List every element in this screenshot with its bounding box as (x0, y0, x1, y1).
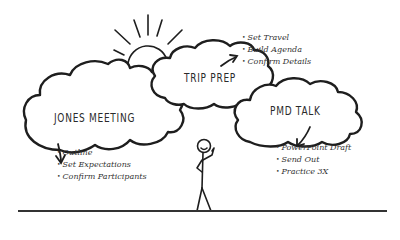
list-item: Build Agenda (242, 43, 311, 55)
list-item: Practice 3X (276, 165, 351, 177)
list-item: Outline (57, 146, 147, 158)
list-trip-prep: Set Travel Build Agenda Confirm Details (242, 31, 311, 67)
list-jones-meeting: Outline Set Expectations Confirm Partici… (57, 146, 147, 182)
cloud-title-jones-meeting: JONES MEETING (54, 110, 135, 125)
list-item: Confirm Details (242, 55, 311, 67)
list-item: Set Expectations (57, 158, 147, 170)
list-item: PowerPoint Draft (276, 141, 351, 153)
list-item: Set Travel (242, 31, 311, 43)
cloud-title-trip-prep: TRIP PREP (184, 70, 236, 85)
cloud-title-pmd-talk: PMD TALK (270, 103, 321, 118)
list-item: Confirm Participants (57, 170, 147, 182)
stick-figure-icon (197, 140, 214, 212)
list-pmd-talk: PowerPoint Draft Send Out Practice 3X (276, 141, 351, 177)
list-item: Send Out (276, 153, 351, 165)
